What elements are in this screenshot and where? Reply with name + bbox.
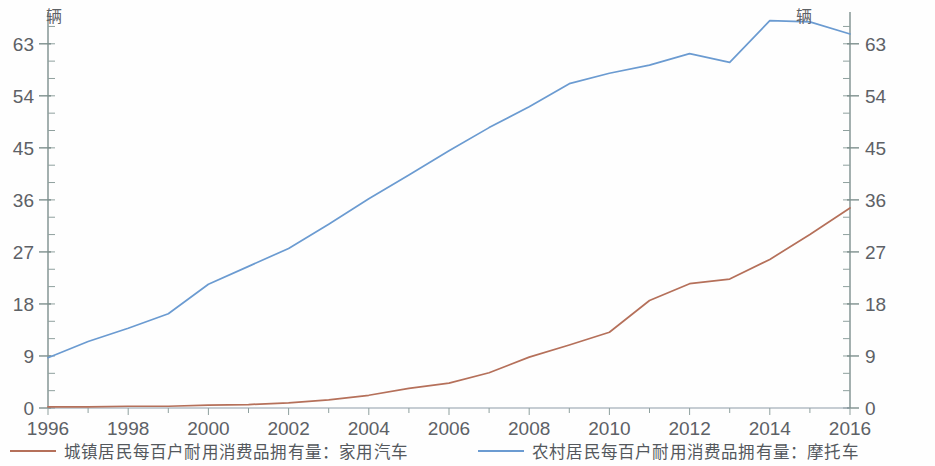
left-axis-tick-label: 9 xyxy=(23,346,34,367)
legend-swatch-rural-motorcycles xyxy=(478,450,524,452)
legend-label-urban-cars: 城镇居民每百户耐用消费品拥有量：家用汽车 xyxy=(64,439,408,463)
legend-item-urban-cars[interactable]: 城镇居民每百户耐用消费品拥有量：家用汽车 xyxy=(10,436,408,466)
left-axis-tick-label: 63 xyxy=(13,34,34,55)
left-axis-tick-label: 18 xyxy=(13,294,34,315)
legend-swatch-urban-cars xyxy=(10,450,56,452)
chart-legend: 城镇居民每百户耐用消费品拥有量：家用汽车 农村居民每百户耐用消费品拥有量：摩托车 xyxy=(0,436,935,466)
left-axis-unit-label: 辆 xyxy=(46,8,62,25)
chart-page: 09182736455463 09182736455463 1996199820… xyxy=(0,0,935,466)
series-line-rural-motorcycles xyxy=(48,21,850,358)
legend-label-rural-motorcycles: 农村居民每百户耐用消费品拥有量：摩托车 xyxy=(532,439,859,463)
right-axis-tick-label: 9 xyxy=(865,346,876,367)
right-axis-unit-label: 辆 xyxy=(796,8,812,25)
legend-item-rural-motorcycles[interactable]: 农村居民每百户耐用消费品拥有量：摩托车 xyxy=(478,436,859,466)
right-axis-tick-label: 63 xyxy=(865,34,886,55)
series-lines xyxy=(48,21,850,407)
right-axis-tick-label: 36 xyxy=(865,190,886,211)
line-chart: 09182736455463 09182736455463 1996199820… xyxy=(0,0,935,466)
right-axis-tick-label: 18 xyxy=(865,294,886,315)
right-axis-tick-label: 27 xyxy=(865,242,886,263)
right-axis-tick-label: 45 xyxy=(865,138,886,159)
right-axis-tick-label: 54 xyxy=(865,86,887,107)
right-axis-tick-label: 0 xyxy=(865,398,876,419)
x-axis: 1996199820002002200420062008201020122014… xyxy=(27,408,871,439)
left-axis-tick-label: 36 xyxy=(13,190,34,211)
left-axis-tick-label: 27 xyxy=(13,242,34,263)
right-axis: 09182736455463 xyxy=(843,12,887,419)
series-line-urban-cars xyxy=(48,208,850,407)
left-axis-tick-label: 45 xyxy=(13,138,34,159)
left-axis-tick-label: 0 xyxy=(23,398,34,419)
left-axis-tick-label: 54 xyxy=(13,86,35,107)
